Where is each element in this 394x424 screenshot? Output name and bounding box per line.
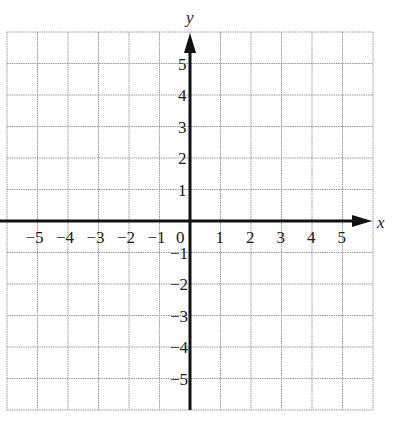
y-tick-label: 1 bbox=[178, 181, 187, 200]
x-tick-label: 3 bbox=[277, 228, 286, 247]
y-tick-label: 4 bbox=[178, 86, 187, 105]
x-tick-label: −4 bbox=[56, 228, 75, 247]
y-tick-label: 3 bbox=[178, 118, 187, 137]
x-tick-label: 2 bbox=[246, 228, 255, 247]
x-tick-label: −3 bbox=[87, 228, 105, 247]
x-axis-label: x bbox=[376, 213, 385, 232]
y-tick-label: −3 bbox=[170, 307, 188, 326]
x-tick-label: 5 bbox=[338, 228, 347, 247]
y-tick-label: −5 bbox=[170, 370, 188, 389]
x-tick-label: 4 bbox=[307, 228, 316, 247]
x-tick-label: 1 bbox=[216, 228, 225, 247]
y-tick-label: −2 bbox=[170, 275, 188, 294]
x-tick-label: −2 bbox=[117, 228, 135, 247]
coordinate-plane: xy−5−4−3−2−101234554321−1−2−3−4−5 bbox=[0, 0, 394, 424]
y-axis-arrow-icon bbox=[184, 33, 196, 53]
y-tick-label: −1 bbox=[170, 244, 188, 263]
x-tick-label: −5 bbox=[26, 228, 44, 247]
y-tick-label: 5 bbox=[178, 55, 187, 74]
y-tick-label: −4 bbox=[170, 338, 189, 357]
y-axis-label: y bbox=[184, 8, 194, 27]
y-tick-label: 2 bbox=[178, 149, 187, 168]
x-tick-label: −1 bbox=[148, 228, 166, 247]
x-axis-arrow-icon bbox=[352, 215, 372, 227]
